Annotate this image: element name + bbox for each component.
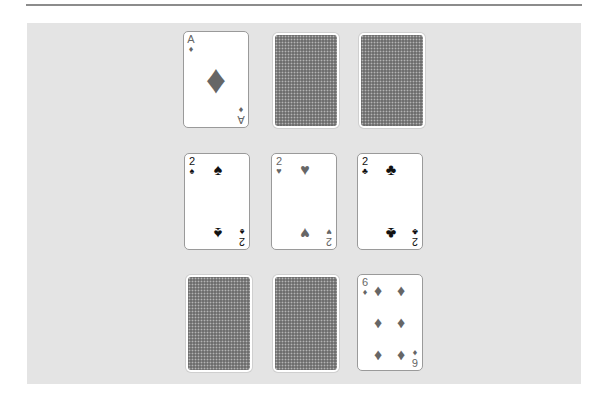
card-two-of-hearts[interactable]: 2 ♥ ♥ ♥ 2 ♥: [271, 153, 337, 250]
spade-icon: ♠: [237, 227, 247, 236]
corner-index-top: 2 ♥: [274, 156, 284, 176]
heart-icon: ♥: [297, 162, 313, 178]
card-six-of-diamonds[interactable]: 6 ♦ ♦ ♦ ♦ ♦ ♦ ♦ 6 ♦: [357, 274, 423, 371]
rank-label: 2: [237, 236, 247, 247]
heart-icon: ♥: [324, 227, 334, 236]
rank-label: 6: [410, 357, 420, 368]
card-two-of-clubs[interactable]: 2 ♣ ♣ ♣ 2 ♣: [357, 153, 423, 250]
card-face-down[interactable]: [273, 33, 339, 128]
corner-index-top: 6 ♦: [360, 277, 370, 297]
corner-index-top: 2 ♣: [360, 156, 370, 176]
rank-label: 2: [324, 236, 334, 247]
corner-index-bottom: 6 ♦: [410, 348, 420, 368]
card-two-of-spades[interactable]: 2 ♠ ♠ ♠ 2 ♠: [184, 153, 250, 250]
spade-icon: ♠: [210, 162, 226, 178]
card-face-down[interactable]: [186, 275, 252, 372]
club-icon: ♣: [383, 225, 399, 241]
diamond-icon: ♦: [236, 105, 246, 114]
card-face-down[interactable]: [273, 275, 339, 372]
diamond-icon: ♦: [186, 45, 196, 54]
corner-index-top: 2 ♠: [187, 156, 197, 176]
diamond-icon: ♦: [196, 59, 236, 99]
club-icon: ♣: [383, 162, 399, 178]
heart-icon: ♥: [274, 167, 284, 176]
diamond-icon: ♦: [370, 347, 386, 363]
diamond-icon: ♦: [370, 315, 386, 331]
diamond-icon: ♦: [360, 288, 370, 297]
club-icon: ♣: [410, 227, 420, 236]
diamond-icon: ♦: [410, 348, 420, 357]
heart-icon: ♥: [297, 225, 313, 241]
corner-index-bottom: 2 ♥: [324, 227, 334, 247]
card-ace-of-diamonds[interactable]: A ♦ ♦ A ♦: [183, 31, 249, 128]
diamond-icon: ♦: [393, 315, 409, 331]
card-face-down[interactable]: [359, 33, 425, 128]
club-icon: ♣: [360, 167, 370, 176]
corner-index-bottom: 2 ♣: [410, 227, 420, 247]
diamond-icon: ♦: [370, 283, 386, 299]
diamond-icon: ♦: [393, 283, 409, 299]
spade-icon: ♠: [210, 225, 226, 241]
corner-index-top: A ♦: [186, 34, 196, 54]
diamond-icon: ♦: [393, 347, 409, 363]
corner-index-bottom: A ♦: [236, 105, 246, 125]
rank-label: A: [236, 114, 246, 125]
spade-icon: ♠: [187, 167, 197, 176]
corner-index-bottom: 2 ♠: [237, 227, 247, 247]
rank-label: 2: [410, 236, 420, 247]
top-divider: [26, 4, 582, 6]
